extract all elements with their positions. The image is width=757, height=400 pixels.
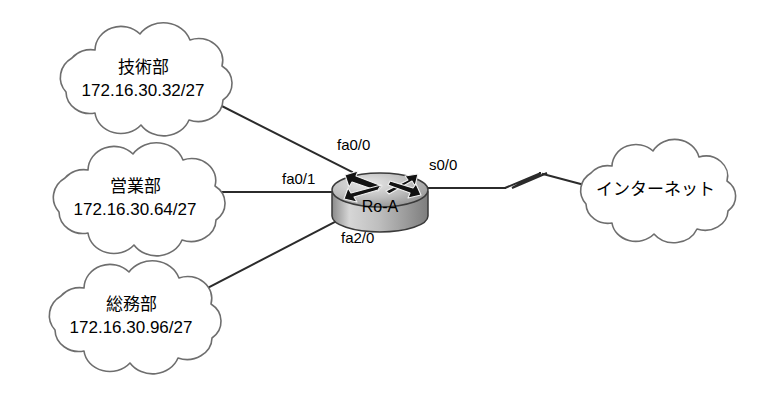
cloud-title-label: 総務部: [106, 295, 157, 314]
link-soumubu-fa20: [200, 214, 350, 292]
cloud-internet[interactable]: インターネット: [581, 139, 736, 242]
serial-zigzag-icon: [505, 173, 547, 188]
cloud-title-label: 営業部: [110, 177, 161, 196]
cloud-shape: [60, 23, 232, 136]
cloud-subnet-label: 172.16.30.32/27: [82, 81, 205, 100]
cloud-subnet-label: 172.16.30.64/27: [74, 200, 197, 219]
cloud-soumubu[interactable]: 総務部 172.16.30.96/27: [49, 261, 221, 374]
cloud-gijutsubu[interactable]: 技術部 172.16.30.32/27: [60, 23, 232, 136]
diagram-canvas: 技術部 172.16.30.32/27 営業部 172.16.30.64/27 …: [0, 0, 757, 400]
router-icon[interactable]: Ro-A: [332, 171, 428, 232]
link-gijutsubu-fa00: [206, 98, 352, 172]
cloud-title-label: インターネット: [596, 180, 715, 199]
cloud-eigyoubu[interactable]: 営業部 172.16.30.64/27: [53, 143, 225, 256]
interface-label-s00: s0/0: [429, 156, 457, 173]
cloud-title-label: 技術部: [118, 58, 169, 77]
network-diagram: 技術部 172.16.30.32/27 営業部 172.16.30.64/27 …: [0, 0, 757, 400]
router-name-label: Ro-A: [362, 198, 399, 215]
interface-label-fa00: fa0/0: [337, 136, 370, 153]
cloud-subnet-label: 172.16.30.96/27: [70, 318, 193, 337]
interface-label-fa01: fa0/1: [282, 170, 315, 187]
interface-label-fa20: fa2/0: [341, 229, 374, 246]
